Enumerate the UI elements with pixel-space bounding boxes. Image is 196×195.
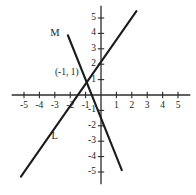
point-annotation: (-1, 1) (55, 68, 79, 78)
y-tick-label--2: -2 (88, 121, 96, 131)
plotted-lines-group (21, 11, 137, 177)
y-tick-label--1: -1 (88, 106, 96, 116)
y-tick-label--3: -3 (88, 136, 96, 146)
coordinate-graph-figure: -5-4-3-2-11234554321-1-2-3-4-5LM(-1, 1) (0, 0, 196, 195)
line-label-L: L (52, 131, 58, 142)
x-tick-label-4: 4 (160, 101, 165, 111)
plot-line-L (21, 11, 137, 177)
x-tick-label--5: -5 (20, 101, 28, 111)
y-tick-label-1: 1 (91, 75, 96, 85)
y-tick-label--5: -5 (88, 167, 96, 177)
y-tick-label-4: 4 (91, 29, 96, 39)
x-tick-label-5: 5 (176, 101, 181, 111)
x-tick-label--4: -4 (35, 101, 43, 111)
line-label-M: M (50, 28, 59, 39)
x-tick-label--3: -3 (51, 101, 59, 111)
axes-group (12, 6, 191, 185)
y-tick-label--4: -4 (88, 152, 96, 162)
x-tick-label--2: -2 (66, 101, 74, 111)
x-tick-label-3: 3 (145, 101, 150, 111)
y-tick-label-2: 2 (91, 59, 96, 69)
x-tick-label-2: 2 (129, 101, 134, 111)
x-tick-label-1: 1 (114, 101, 119, 111)
y-tick-label-3: 3 (91, 44, 96, 54)
graph-canvas (0, 0, 196, 195)
y-tick-label-5: 5 (91, 13, 96, 23)
